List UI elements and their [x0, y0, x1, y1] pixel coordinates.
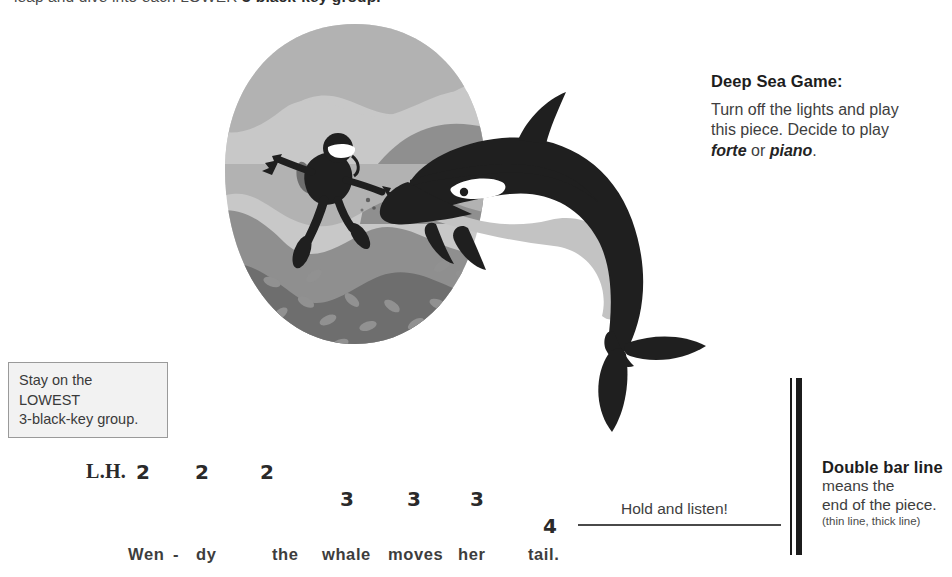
deep-sea-game-body: Turn off the lights and play this piece.…: [711, 100, 931, 161]
fingering-number: 2: [260, 460, 274, 484]
deep-sea-game-title: Deep Sea Game:: [711, 72, 931, 91]
stay-on-lowest-group-box: Stay on the LOWEST 3-black-key group.: [8, 362, 168, 438]
lyric-syllable: dy: [196, 545, 216, 564]
top-instruction-prefix: leap and dive into each LOWER: [14, 0, 242, 5]
stay-box-line-1: Stay on the: [19, 371, 167, 391]
stay-box-line-3: 3-black-key group.: [19, 410, 167, 430]
lyric-syllable: tail.: [528, 545, 559, 564]
hold-and-listen-label: Hold and listen!: [621, 500, 728, 518]
double-bar-line: [790, 378, 804, 555]
deep-sea-line-2: this piece. Decide to play: [711, 121, 889, 138]
deep-sea-line-1: Turn off the lights and play: [711, 101, 899, 118]
double-bar-caption-line-3: end of the piece.: [822, 496, 952, 515]
double-bar-caption-title: Double bar line: [822, 458, 952, 477]
fingering-number: 2: [195, 460, 209, 484]
top-instruction-bold: 3-black-key group.: [242, 0, 381, 5]
top-instruction-text: leap and dive into each LOWER 3-black-ke…: [14, 0, 381, 6]
fingering-number: 3: [340, 487, 354, 511]
left-hand-label: L.H.: [86, 460, 126, 483]
dynamic-piano: piano: [770, 142, 813, 159]
fingering-number: 3: [407, 487, 421, 511]
deep-sea-period: .: [812, 142, 816, 159]
deep-sea-game-note: Deep Sea Game: Turn off the lights and p…: [711, 72, 931, 161]
lyric-syllable: moves: [388, 545, 443, 564]
stay-box-line-2: LOWEST: [19, 391, 167, 411]
dynamic-forte: forte: [711, 142, 747, 159]
lyric-syllable: -: [173, 545, 179, 564]
lyric-syllable: the: [272, 545, 299, 564]
lyric-syllable: Wen: [128, 545, 164, 564]
fingering-number: 3: [470, 487, 484, 511]
bar-thin-line: [790, 378, 792, 555]
fingering-number: 2: [136, 460, 150, 484]
double-bar-caption: Double bar line means the end of the pie…: [822, 458, 952, 527]
lyric-syllable: her: [458, 545, 485, 564]
double-bar-caption-line-2: means the: [822, 477, 952, 496]
bar-thick-line: [796, 378, 802, 555]
hold-tie-line: [578, 524, 781, 526]
deep-sea-conjunction: or: [747, 142, 770, 159]
fingering-number: 4: [543, 514, 557, 538]
lyric-syllable: whale: [322, 545, 371, 564]
double-bar-caption-sub: (thin line, thick line): [822, 515, 952, 527]
